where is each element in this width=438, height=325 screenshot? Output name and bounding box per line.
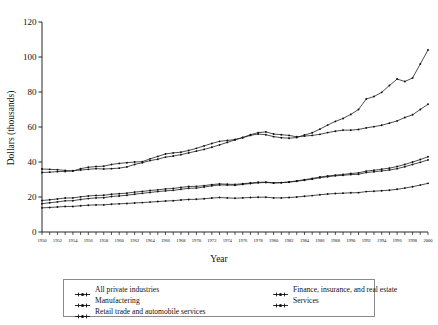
series-line bbox=[41, 159, 429, 202]
legend-item-label: Services bbox=[293, 296, 319, 305]
x-tick-label: 1954 bbox=[68, 238, 78, 243]
x-tick-label: 1974 bbox=[223, 238, 233, 243]
x-tick-label: 1960 bbox=[115, 238, 125, 243]
legend-item: Services bbox=[272, 295, 397, 306]
y-tick-label: 120 bbox=[23, 17, 37, 27]
axis-ticks bbox=[39, 22, 429, 235]
series-line bbox=[41, 103, 429, 173]
x-tick-label: 1956 bbox=[84, 238, 94, 243]
x-tick-label: 2000 bbox=[423, 238, 433, 243]
x-tick-label: 1950 bbox=[37, 238, 47, 243]
y-axis-title: Dollars (thousands) bbox=[6, 91, 17, 166]
x-tick-label: 1976 bbox=[238, 238, 248, 243]
x-tick-label: 1994 bbox=[377, 238, 387, 243]
x-tick-label: 1980 bbox=[269, 238, 279, 243]
x-tick-label: 1978 bbox=[254, 238, 264, 243]
x-tick-label: 1992 bbox=[362, 238, 372, 243]
legend-item-label: Manufactering bbox=[95, 296, 140, 305]
x-tick-label: 1952 bbox=[53, 238, 63, 243]
legend-column-left: All private industriesManufacteringRetai… bbox=[74, 284, 206, 317]
y-tick-label: 60 bbox=[28, 122, 38, 132]
legend-marker-icon bbox=[272, 296, 289, 305]
x-tick-label: 1984 bbox=[300, 238, 310, 243]
x-tick-label: 1998 bbox=[408, 238, 418, 243]
x-tick-label: 1958 bbox=[99, 238, 109, 243]
legend-column-right: Finance, insurance, and real estateServi… bbox=[272, 284, 397, 306]
y-tick-label: 0 bbox=[32, 227, 37, 237]
x-tick-label: 1988 bbox=[331, 238, 341, 243]
x-tick-label: 1964 bbox=[145, 238, 155, 243]
legend-item: Manufactering bbox=[74, 295, 206, 306]
x-tick-label: 1972 bbox=[207, 238, 217, 243]
x-tick-label: 1996 bbox=[393, 238, 403, 243]
chart-figure: 020406080100120 195019521954195619581960… bbox=[0, 0, 438, 325]
legend-item: Finance, insurance, and real estate bbox=[272, 284, 397, 295]
legend-marker-icon bbox=[74, 285, 91, 294]
legend-marker-icon bbox=[74, 307, 91, 316]
x-axis-title: Year bbox=[210, 254, 228, 264]
series-line bbox=[41, 49, 429, 172]
x-tick-label: 1990 bbox=[346, 238, 356, 243]
y-tick-label: 40 bbox=[28, 157, 38, 167]
chart-legend: All private industriesManufacteringRetai… bbox=[63, 279, 375, 317]
legend-item-label: Retail trade and automobile services bbox=[95, 307, 206, 316]
legend-marker-icon bbox=[74, 296, 91, 305]
x-tick-label: 1982 bbox=[284, 238, 294, 243]
x-tick-label: 1962 bbox=[130, 238, 140, 243]
x-tick-label: 1986 bbox=[315, 238, 325, 243]
legend-item-label: Finance, insurance, and real estate bbox=[293, 285, 397, 294]
y-tick-labels: 020406080100120 bbox=[23, 17, 37, 237]
y-tick-label: 100 bbox=[23, 52, 37, 62]
y-tick-label: 80 bbox=[28, 87, 38, 97]
line-chart-plot: 020406080100120 195019521954195619581960… bbox=[0, 0, 438, 325]
legend-item: All private industries bbox=[74, 284, 206, 295]
x-tick-label: 1968 bbox=[176, 238, 186, 243]
x-tick-label: 1966 bbox=[161, 238, 171, 243]
y-tick-label: 20 bbox=[28, 192, 38, 202]
x-tick-labels: 1950195219541956195819601962196419661968… bbox=[37, 238, 433, 243]
legend-item: Retail trade and automobile services bbox=[74, 306, 206, 317]
legend-marker-icon bbox=[272, 285, 289, 294]
data-series bbox=[41, 49, 429, 209]
legend-item-label: All private industries bbox=[95, 285, 159, 294]
x-tick-label: 1970 bbox=[192, 238, 202, 243]
